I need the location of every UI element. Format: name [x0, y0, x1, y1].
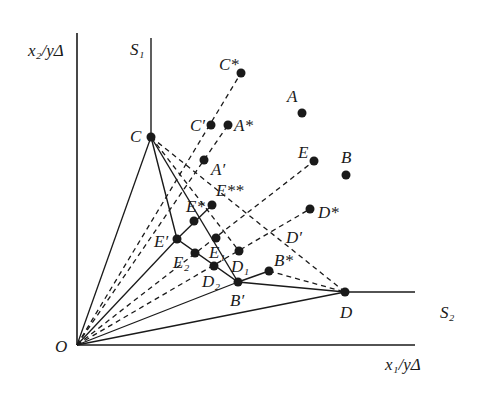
dash-o-dstar — [77, 209, 310, 345]
point-a — [298, 109, 307, 118]
label-d-prime: D′ — [285, 228, 302, 247]
label-e2: E₂ — [172, 253, 189, 272]
label-d1: D₁ — [230, 257, 249, 276]
point-d2 — [210, 262, 219, 271]
point-c-prime — [207, 121, 216, 130]
point-b-star — [265, 267, 274, 276]
label-e-prime: E′ — [153, 232, 168, 251]
point-b — [342, 171, 351, 180]
label-b: B — [341, 148, 352, 167]
label-c-star: C* — [219, 55, 239, 74]
label-d: D — [339, 303, 353, 322]
label-a-star: A* — [233, 116, 253, 135]
label-d-star: D* — [317, 203, 339, 222]
label-c-prime: C′ — [190, 116, 205, 135]
dea-diagram: x₂/yΔ x₁/yΔ O S₁ S₂ C D B′ B* D₁ D₂ E₁ E… — [0, 0, 486, 397]
y-axis-label: x₂/yΔ — [27, 41, 64, 60]
label-e: E — [297, 143, 309, 162]
point-d-star — [306, 205, 315, 214]
label-e-star: E* — [185, 197, 205, 216]
label-b-prime: B′ — [230, 291, 244, 310]
dash-o-cstar — [77, 73, 241, 345]
label-a: A — [286, 87, 298, 106]
point-e1 — [212, 234, 221, 243]
label-e-2star: E** — [215, 181, 244, 200]
point-e-star — [190, 217, 199, 226]
label-b-star: B* — [274, 251, 293, 270]
ray-o-bprime — [77, 282, 238, 345]
label-d2: D₂ — [201, 272, 220, 291]
ray-o-d — [77, 292, 345, 345]
label-c: C — [130, 127, 142, 146]
point-b-prime — [234, 278, 243, 287]
point-d — [341, 288, 350, 297]
point-e-prime — [173, 235, 182, 244]
label-a-prime: A′ — [210, 160, 225, 179]
s1-label: S₁ — [130, 40, 144, 59]
x-axis-label: x₁/yΔ — [384, 355, 421, 374]
point-e2 — [191, 249, 200, 258]
point-e — [310, 157, 319, 166]
point-a-star — [224, 121, 233, 130]
point-c — [147, 133, 156, 142]
label-e1: E₁ — [208, 243, 225, 262]
point-e-2star — [208, 201, 217, 210]
s2-label: S₂ — [440, 303, 455, 322]
point-d1 — [235, 247, 244, 256]
point-a-prime — [200, 156, 209, 165]
origin-label: O — [55, 337, 67, 356]
ray-o-eprime — [77, 239, 177, 345]
